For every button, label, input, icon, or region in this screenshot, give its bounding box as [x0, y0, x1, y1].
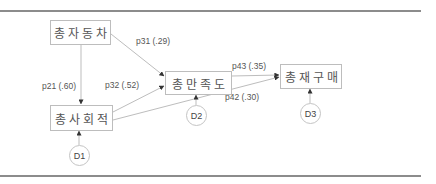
node-repurchase: 총재구매 — [280, 64, 342, 89]
path-diagram: 총자동차 총사회적 총만족도 총재구매 D1 D2 D3 p31 (.29) p… — [0, 0, 436, 184]
arrow-p43 — [232, 75, 279, 76]
path-label-p42: p42 (.30) — [225, 92, 259, 102]
node-satisfaction: 총만족도 — [165, 71, 232, 95]
disturbance-d3: D3 — [300, 103, 321, 124]
node-social: 총사회적 — [50, 105, 113, 131]
path-label-p32: p32 (.52) — [105, 80, 139, 90]
path-label-p21: p21 (.60) — [42, 81, 76, 91]
disturbance-d1: D1 — [69, 145, 90, 166]
disturbance-d2: D2 — [186, 105, 207, 126]
path-label-p43: p43 (.35) — [232, 61, 266, 71]
path-label-p31: p31 (.29) — [136, 36, 170, 46]
node-car: 총자동차 — [50, 20, 111, 45]
